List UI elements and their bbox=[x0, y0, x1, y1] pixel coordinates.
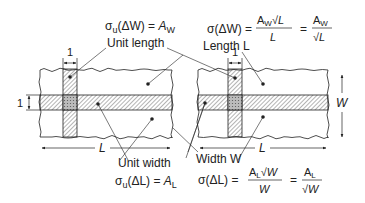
svg-text:AW: AW bbox=[313, 14, 328, 28]
left-intersection bbox=[63, 95, 77, 110]
svg-text:=: = bbox=[300, 22, 307, 36]
svg-text:√W: √W bbox=[302, 183, 320, 195]
svg-text:=: = bbox=[290, 173, 297, 187]
top-right-formula: σ(ΔW) = AW√L L = AW √L Length L bbox=[203, 14, 332, 53]
bottom-right-formula: Width W σ(ΔL) = AL√W W = AL √W bbox=[196, 152, 322, 195]
bottom-left-formula: Unit width σu(ΔL) = AL bbox=[115, 156, 177, 190]
left-sample-panel bbox=[39, 68, 173, 139]
unit-length-label: Unit length bbox=[107, 36, 164, 50]
svg-text:AL√W: AL√W bbox=[249, 166, 279, 180]
svg-text:σ(ΔL) =: σ(ΔL) = bbox=[198, 173, 238, 187]
svg-text:√L: √L bbox=[313, 31, 325, 43]
unit-width-label: Unit width bbox=[118, 156, 171, 170]
right-intersection bbox=[228, 95, 242, 110]
right-horizontal-strip bbox=[198, 95, 328, 110]
right-L-label: L bbox=[259, 141, 266, 155]
right-W-label: W bbox=[336, 96, 349, 110]
svg-text:σ(ΔW) =: σ(ΔW) = bbox=[207, 22, 252, 36]
svg-text:AL: AL bbox=[304, 166, 316, 180]
left-L-label: L bbox=[99, 141, 106, 155]
unit-length-tick-label: 1 bbox=[67, 46, 73, 58]
left-horizontal-strip bbox=[40, 95, 172, 110]
right-sample-panel bbox=[197, 68, 329, 139]
svg-text:AW√L: AW√L bbox=[257, 14, 284, 28]
svg-text:L: L bbox=[270, 31, 276, 43]
unit-width-tick-label: 1 bbox=[17, 97, 23, 109]
top-left-formula: σu(ΔW) = AW Unit length bbox=[105, 19, 175, 50]
sampling-diagram: 1 1 1 L L W σu(ΔW) = AW Unit length σ(ΔW… bbox=[0, 0, 365, 203]
length-L-label: Length L bbox=[203, 39, 250, 53]
width-W-label: Width W bbox=[196, 152, 242, 166]
svg-text:W: W bbox=[259, 183, 271, 195]
svg-text:σu(ΔW) = AW: σu(ΔW) = AW bbox=[105, 19, 175, 35]
svg-text:σu(ΔL) = AL: σu(ΔL) = AL bbox=[115, 174, 177, 190]
